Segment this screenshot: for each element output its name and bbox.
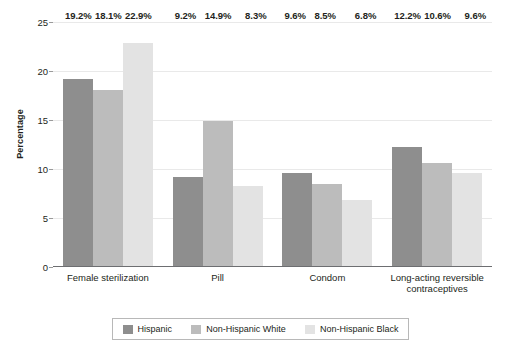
legend-item-non-hispanic-white[interactable]: Non-Hispanic White <box>191 324 286 334</box>
legend-swatch-icon <box>305 325 315 334</box>
bar-value-label: 19.2% <box>65 10 92 21</box>
bar-group-long-acting-reversible-contraceptives: 12.2% 10.6% 9.6% <box>382 22 492 267</box>
chart-legend: Hispanic Non-Hispanic White Non-Hispanic… <box>112 318 409 340</box>
bar-hispanic[interactable] <box>392 147 422 267</box>
bar-slot: 9.6% <box>282 22 312 267</box>
bar-non-hispanic-black[interactable] <box>452 173 482 267</box>
y-tick-label-10: 10 <box>37 164 48 175</box>
bar-group-female-sterilization: 19.2% 18.1% 22.9% <box>53 22 163 267</box>
x-axis-label-condom: Condom <box>273 272 383 294</box>
bar-value-label: 10.6% <box>424 10 451 21</box>
y-tick-label-5: 5 <box>43 213 48 224</box>
bar-non-hispanic-white[interactable] <box>422 163 452 267</box>
y-tick-label-25: 25 <box>37 17 48 28</box>
legend-swatch-icon <box>123 325 133 334</box>
legend-item-non-hispanic-black[interactable]: Non-Hispanic Black <box>305 324 399 334</box>
y-axis-title-text: Percentage <box>15 109 25 159</box>
bar-non-hispanic-white[interactable] <box>312 184 342 267</box>
y-tick-label-0: 0 <box>43 262 48 273</box>
bar-value-label: 8.5% <box>314 10 336 21</box>
x-axis-label-female-sterilization: Female sterilization <box>53 272 163 294</box>
bar-slot: 8.5% <box>312 22 342 267</box>
bar-non-hispanic-black[interactable] <box>123 43 153 267</box>
bar-group-condom: 9.6% 8.5% 6.8% <box>273 22 383 267</box>
x-axis-label-line: contraceptives <box>382 283 492 294</box>
plot-area: 25 20 15 10 5 0 19.2% 18.1% <box>53 22 492 267</box>
x-axis-label-line: Pill <box>163 272 273 283</box>
bar-value-label: 22.9% <box>125 10 152 21</box>
bar-slot: 12.2% <box>392 22 422 267</box>
bar-value-label: 14.9% <box>205 10 232 21</box>
y-tick-label-15: 15 <box>37 115 48 126</box>
bar-slot: 22.9% <box>123 22 153 267</box>
x-axis-label-long-acting-reversible-contraceptives: Long-acting reversible contraceptives <box>382 272 492 294</box>
bar-value-label: 18.1% <box>95 10 122 21</box>
bar-value-label: 9.2% <box>175 10 197 21</box>
bar-slot: 6.8% <box>342 22 372 267</box>
bar-slot: 18.1% <box>93 22 123 267</box>
x-axis-category-labels: Female sterilization Pill Condom Long-ac… <box>53 272 492 294</box>
bar-hispanic[interactable] <box>63 79 93 267</box>
y-tick-mark-0 <box>49 267 53 268</box>
bar-non-hispanic-black[interactable] <box>342 200 372 267</box>
legend-item-label: Hispanic <box>138 324 173 334</box>
bar-hispanic[interactable] <box>282 173 312 267</box>
bar-slot: 8.3% <box>233 22 263 267</box>
bar-slot: 9.2% <box>173 22 203 267</box>
legend-item-label: Non-Hispanic Black <box>320 324 399 334</box>
y-tick-label-20: 20 <box>37 66 48 77</box>
bar-slot: 14.9% <box>203 22 233 267</box>
bar-value-label: 9.6% <box>464 10 486 21</box>
x-axis-label-line: Female sterilization <box>53 272 163 283</box>
y-axis-title: Percentage <box>12 0 28 267</box>
legend-swatch-icon <box>191 325 201 334</box>
bar-value-label: 12.2% <box>394 10 421 21</box>
legend-item-hispanic[interactable]: Hispanic <box>123 324 173 334</box>
bar-non-hispanic-black[interactable] <box>233 186 263 267</box>
x-axis-baseline <box>53 266 492 268</box>
bar-value-label: 9.6% <box>284 10 306 21</box>
bar-value-label: 6.8% <box>355 10 377 21</box>
bar-hispanic[interactable] <box>173 177 203 267</box>
x-axis-label-line: Condom <box>273 272 383 283</box>
grouped-bar-chart: Percentage 25 20 15 10 5 0 19.2% <box>0 0 515 354</box>
legend-item-label: Non-Hispanic White <box>206 324 286 334</box>
bar-groups: 19.2% 18.1% 22.9% 9 <box>53 22 492 267</box>
bar-value-label: 8.3% <box>245 10 267 21</box>
bar-non-hispanic-white[interactable] <box>203 121 233 267</box>
bar-slot: 19.2% <box>63 22 93 267</box>
bar-slot: 9.6% <box>452 22 482 267</box>
bar-non-hispanic-white[interactable] <box>93 90 123 267</box>
bar-slot: 10.6% <box>422 22 452 267</box>
x-axis-label-line: Long-acting reversible <box>382 272 492 283</box>
x-axis-label-pill: Pill <box>163 272 273 294</box>
bar-group-pill: 9.2% 14.9% 8.3% <box>163 22 273 267</box>
